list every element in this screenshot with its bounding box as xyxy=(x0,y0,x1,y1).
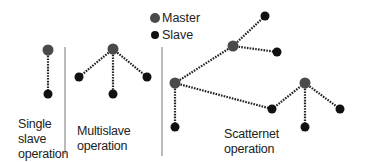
slave-node-sc_bridge xyxy=(268,105,277,114)
legend-master-label: Master xyxy=(162,11,200,25)
slave-node-m_s3 xyxy=(143,73,152,82)
label-scatternet-operation: Scatternet operation xyxy=(224,127,279,157)
master-node-sc_mB xyxy=(228,41,239,52)
master-node-m_m xyxy=(108,44,119,55)
slave-node-sc_sB2 xyxy=(273,48,282,57)
legend-slave: Slave xyxy=(151,28,193,42)
link-m_m-m_s3 xyxy=(113,49,147,77)
link-sc_mB-sc_sB1 xyxy=(233,16,265,46)
label-line: operation xyxy=(224,142,279,157)
slave-node-sc_sC1 xyxy=(301,123,310,132)
nodes-layer xyxy=(43,12,345,132)
link-sc_mA-sc_mB xyxy=(175,46,233,83)
label-line: operation xyxy=(18,147,68,162)
master-node-icon xyxy=(150,13,160,23)
label-line: operation xyxy=(77,139,131,154)
link-m_m-m_s1 xyxy=(79,49,113,77)
legend-master: Master xyxy=(150,11,200,25)
link-sc_mA-sc_bridge xyxy=(175,83,272,109)
master-node-sc_mC xyxy=(300,78,311,89)
slave-node-sc_sB1 xyxy=(261,12,270,21)
slave-node-m_s2 xyxy=(109,90,118,99)
slave-node-s_s xyxy=(44,90,53,99)
label-multislave-operation: Multislave operation xyxy=(77,124,131,154)
legend-slave-label: Slave xyxy=(162,28,193,42)
slave-node-m_s1 xyxy=(75,73,84,82)
link-sc_mB-sc_sB2 xyxy=(233,46,277,52)
label-line: Single xyxy=(18,117,68,132)
links-layer xyxy=(48,16,340,127)
label-single-slave-operation: Single slave operation xyxy=(18,117,68,162)
master-node-sc_mA xyxy=(170,78,181,89)
label-line: slave xyxy=(18,132,68,147)
slave-node-icon xyxy=(151,31,159,39)
label-line: Multislave xyxy=(77,124,131,139)
slave-node-sc_sC2 xyxy=(336,105,345,114)
link-sc_mC-sc_sC2 xyxy=(305,83,340,109)
master-node-s_m xyxy=(43,45,54,56)
slave-node-sc_sA xyxy=(171,123,180,132)
link-sc_bridge-sc_mC xyxy=(272,83,305,109)
label-line: Scatternet xyxy=(224,127,279,142)
